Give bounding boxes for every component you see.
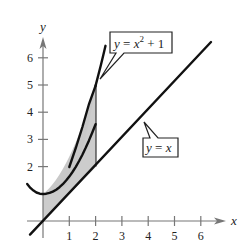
- x-tick-2: 2: [93, 229, 99, 243]
- line-label-callout: y = x: [143, 122, 178, 157]
- parabola-upper: [96, 46, 106, 86]
- x-tick-labels: 1 2 3 4 5 6: [66, 229, 204, 243]
- parabola-label-callout: y = x2 + 1: [100, 32, 172, 79]
- x-tick-3: 3: [119, 229, 125, 243]
- y-tick-5: 5: [27, 78, 33, 92]
- line-y-equals-x: [30, 42, 211, 235]
- x-tick-5: 5: [172, 229, 178, 243]
- parabola-equation: y = x2 + 1: [112, 34, 164, 51]
- y-tick-2: 2: [27, 160, 33, 174]
- y-tick-labels: 2 3 4 5 6: [27, 51, 33, 174]
- x-tick-1: 1: [66, 229, 72, 243]
- line-equation: y = x: [144, 140, 172, 155]
- y-axis-label: y: [38, 19, 46, 34]
- x-axis-label: x: [230, 213, 237, 228]
- y-tick-6: 6: [27, 51, 33, 65]
- y-tick-3: 3: [27, 132, 33, 146]
- y-tick-4: 4: [27, 105, 33, 119]
- x-tick-4: 4: [145, 229, 151, 243]
- area-between-curves-chart: 1 2 3 4 5 6 x 2 3 4 5 6 y y = x2 + 1 y =…: [0, 0, 240, 248]
- x-tick-6: 6: [198, 229, 204, 243]
